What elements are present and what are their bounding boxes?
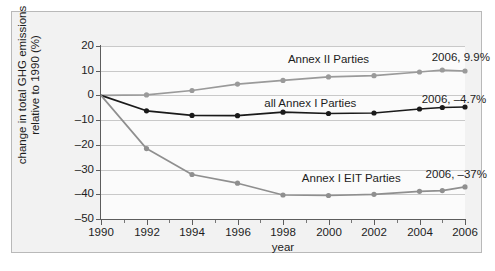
data-point-marker [417,106,422,111]
data-point-marker [280,78,285,83]
figure-frame: 20100–10–20–30–40–50 1990199219941996199… [11,11,482,253]
data-point-marker [417,69,422,74]
data-point-marker [462,184,467,189]
data-point-marker [440,67,445,72]
series-annex-ii-parties [101,67,468,97]
data-point-marker [189,88,194,93]
data-point-marker [371,110,376,115]
data-point-marker [326,74,331,79]
x-axis-title: year [101,241,465,253]
annex-ii-series-label: Annex II Parties [288,53,369,65]
all-annex-i-series-label: all Annex I Parties [264,97,356,109]
data-point-marker [235,82,240,87]
data-point-marker [189,172,194,177]
annex-i-eit-endpoint-label: 2006, –37% [426,168,487,180]
annex-ii-endpoint-label: 2006, 9.9% [432,51,490,63]
data-point-marker [326,111,331,116]
data-point-marker [371,192,376,197]
data-point-marker [235,181,240,186]
data-point-marker [371,73,376,78]
data-point-marker [462,68,467,73]
y-axis-title: change in total GHG emissions relative t… [16,5,42,165]
series-lines [12,12,483,254]
data-point-marker [440,105,445,110]
data-point-marker [440,188,445,193]
data-point-marker [280,110,285,115]
data-point-marker [144,92,149,97]
data-point-marker [280,192,285,197]
annex-i-eit-series-label: Annex I EIT Parties [302,172,401,184]
data-point-marker [417,189,422,194]
all-annex-i-endpoint-label: 2006, –4.7% [422,93,487,105]
data-point-marker [144,146,149,151]
data-point-marker [326,193,331,198]
chart-screenshot: 20100–10–20–30–40–50 1990199219941996199… [0,0,495,271]
data-point-marker [144,108,149,113]
data-point-marker [189,113,194,118]
data-point-marker [235,113,240,118]
